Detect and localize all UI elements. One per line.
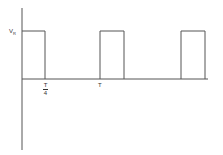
tick-label-t: T [98, 82, 102, 88]
tick-label-t-over-4: T 4 [43, 82, 48, 96]
fraction-den: 4 [43, 90, 48, 96]
pulse-1 [22, 31, 45, 79]
t-label: T [98, 82, 102, 88]
pulse-2 [100, 31, 124, 79]
fraction-num: T [43, 82, 48, 88]
label-r: R [13, 31, 16, 36]
pulse-3 [181, 31, 205, 79]
y-axis-label: VR [9, 28, 16, 36]
square-wave-diagram [0, 0, 223, 155]
